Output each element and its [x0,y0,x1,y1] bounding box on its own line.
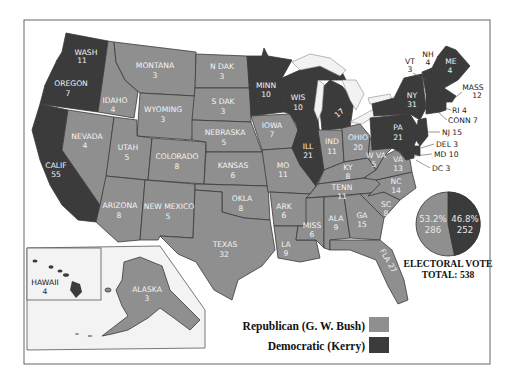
svg-text:6: 6 [282,211,287,220]
svg-text:4: 4 [83,141,88,150]
svg-text:WYOMING: WYOMING [144,105,182,114]
svg-text:KANSAS: KANSAS [218,161,249,170]
svg-text:DC 3: DC 3 [432,164,451,173]
svg-text:32: 32 [219,250,229,259]
svg-text:11: 11 [337,192,347,201]
svg-text:IND: IND [325,137,339,146]
svg-text:LA: LA [281,240,291,249]
state-pa[interactable] [370,114,420,150]
svg-text:6: 6 [231,171,236,180]
svg-text:CONN 7: CONN 7 [448,116,478,125]
svg-text:6: 6 [310,230,315,239]
svg-text:12: 12 [472,91,482,100]
svg-text:31: 31 [407,100,417,109]
state-nd[interactable] [195,54,251,88]
svg-text:3: 3 [153,71,158,80]
svg-text:N DAK: N DAK [210,62,235,71]
svg-text:RI 4: RI 4 [452,106,467,115]
svg-text:3: 3 [221,107,226,116]
state-ri[interactable] [440,102,446,112]
svg-text:ALA: ALA [329,214,345,223]
svg-text:15: 15 [357,220,367,229]
svg-text:ME: ME [445,57,457,66]
pie-total: TOTAL: 538 [422,269,475,280]
svg-text:DEL 3: DEL 3 [436,140,458,149]
svg-text:OREGON: OREGON [54,79,88,88]
svg-text:ARIZONA: ARIZONA [103,201,139,210]
svg-text:VA: VA [393,155,404,164]
svg-text:8: 8 [239,204,244,213]
svg-text:5: 5 [125,153,130,162]
svg-text:NEW MEXICO: NEW MEXICO [144,202,194,211]
svg-text:21: 21 [303,151,313,160]
svg-text:4: 4 [426,58,431,67]
svg-text:SC: SC [381,200,391,209]
svg-text:IDAHO: IDAHO [103,96,128,105]
svg-text:3: 3 [220,72,225,81]
svg-text:NEBRASKA: NEBRASKA [205,128,247,137]
svg-text:CALIF: CALIF [45,161,66,170]
svg-text:8: 8 [384,209,389,218]
svg-text:10: 10 [261,90,271,99]
svg-text:8: 8 [175,162,180,171]
svg-text:MINN: MINN [256,81,276,90]
svg-text:3: 3 [408,65,413,74]
svg-text:GA: GA [356,211,368,220]
svg-text:10: 10 [293,103,303,112]
svg-text:4: 4 [43,287,48,296]
svg-text:COLORADO: COLORADO [155,152,198,161]
svg-text:NY: NY [407,91,418,100]
pie-title: ELECTORAL VOTE [404,258,493,269]
svg-text:11: 11 [278,170,288,179]
svg-text:7: 7 [66,89,71,98]
svg-text:46.8%: 46.8% [451,214,478,224]
legend-label-republican: Republican (G. W. Bush) [243,320,366,333]
svg-text:TEXAS: TEXAS [212,240,238,249]
svg-text:ARK: ARK [276,202,292,211]
svg-text:ALASKA: ALASKA [132,285,162,294]
election-map: WASH 11 OREGON 7 CALIF 55 IDAHO 4 NEVADA… [0,0,511,380]
svg-text:PA: PA [393,123,403,132]
svg-text:20: 20 [353,143,363,152]
svg-text:W VA: W VA [366,151,387,160]
svg-text:14: 14 [391,186,401,195]
svg-text:NJ 15: NJ 15 [442,128,462,137]
svg-text:5: 5 [166,212,171,221]
svg-text:KY: KY [343,163,353,172]
svg-text:3: 3 [161,115,166,124]
svg-text:MO: MO [277,161,290,170]
legend-swatch-republican [369,317,389,332]
svg-text:OKLA: OKLA [232,194,253,203]
svg-text:9: 9 [334,223,339,232]
legend-label-democratic: Democratic (Kerry) [268,340,366,353]
svg-text:5: 5 [222,138,227,147]
state-wy[interactable] [137,93,195,140]
svg-text:S DAK: S DAK [211,97,235,106]
svg-text:3: 3 [145,294,150,303]
svg-text:7: 7 [270,130,275,139]
svg-text:UTAH: UTAH [118,143,139,152]
svg-text:HAWAII: HAWAII [31,278,58,287]
svg-text:MISS: MISS [303,221,322,230]
svg-text:8: 8 [346,172,351,181]
svg-text:4: 4 [448,66,453,75]
svg-text:252: 252 [457,225,473,235]
svg-text:55: 55 [51,170,61,179]
svg-text:MD 10: MD 10 [434,150,459,159]
svg-text:5: 5 [372,160,377,169]
svg-text:11: 11 [327,147,337,156]
svg-text:NEVADA: NEVADA [71,132,103,141]
svg-text:ILL: ILL [303,142,314,151]
svg-text:11: 11 [77,56,87,65]
state-co[interactable] [148,138,206,184]
svg-text:IOWA: IOWA [262,121,283,130]
svg-text:286: 286 [425,225,441,235]
state-de[interactable] [414,146,420,156]
svg-text:TENN: TENN [331,183,353,192]
svg-text:21: 21 [393,133,403,142]
electoral-pie-chart: 53.2% 286 46.8% 252 [416,192,480,256]
legend-swatch-democratic [369,337,389,353]
svg-text:9: 9 [284,249,289,258]
svg-text:WIS: WIS [291,93,306,102]
svg-text:NC: NC [391,177,402,186]
